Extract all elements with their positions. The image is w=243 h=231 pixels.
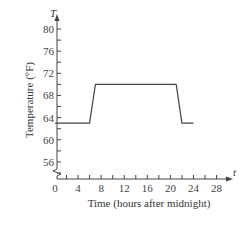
temperature-line xyxy=(55,84,194,123)
y-variable-label: T xyxy=(50,7,57,19)
x-tick-label: 12 xyxy=(119,182,130,194)
y-tick-label: 60 xyxy=(43,134,55,146)
x-variable-label: t xyxy=(233,166,237,178)
x-tick-label: 8 xyxy=(98,182,104,194)
axis-break-icon xyxy=(53,169,61,179)
x-axis-arrow-icon xyxy=(226,177,233,182)
y-tick-label: 76 xyxy=(43,45,55,57)
y-tick-label: 80 xyxy=(43,23,55,35)
x-tick-label: 16 xyxy=(142,182,154,194)
x-tick-label: 28 xyxy=(211,182,223,194)
y-axis-title: Temperature (°F) xyxy=(23,62,36,138)
y-tick-label: 72 xyxy=(43,67,54,79)
y-ticks: 56606468727680 xyxy=(43,23,61,173)
x-axis: 0481216202428 t xyxy=(52,166,237,194)
x-tick-label: 24 xyxy=(188,182,200,194)
y-tick-label: 68 xyxy=(43,89,55,101)
y-axis: 56606468727680 T xyxy=(43,7,61,179)
x-tick-label: 20 xyxy=(165,182,177,194)
y-tick-label: 64 xyxy=(43,112,55,124)
y-tick-label: 56 xyxy=(43,156,55,168)
temperature-chart: 56606468727680 T 0481216202428 t Time (h… xyxy=(0,0,243,231)
x-ticks: 0481216202428 xyxy=(52,175,222,194)
x-tick-label: 0 xyxy=(52,182,58,194)
x-axis-title: Time (hours after midnight) xyxy=(88,197,211,210)
x-tick-label: 4 xyxy=(75,182,81,194)
